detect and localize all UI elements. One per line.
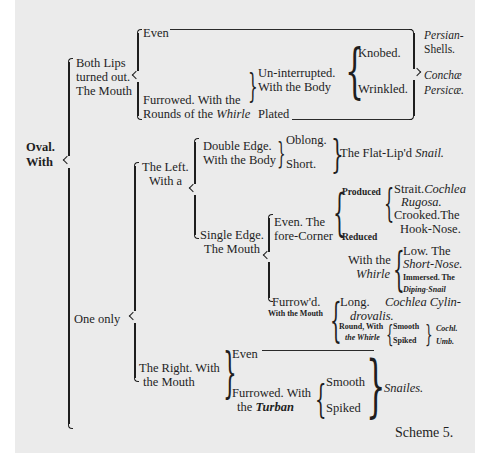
strait-crooked-brace: { — [384, 182, 394, 222]
main-brace-line-upper — [68, 62, 70, 156]
produced: Produced — [342, 187, 381, 198]
both-lips-brace-bottom — [137, 115, 142, 120]
persian-bracket-lower — [413, 80, 415, 116]
long: Long. — [340, 295, 370, 309]
snailes: Snailes. — [384, 381, 423, 395]
snailes-brace: } — [366, 352, 385, 420]
cochlea-cyl-1: Cochlea Cylin- — [385, 295, 461, 309]
double-edge-1: Double Edge. — [203, 139, 272, 153]
right-furrowed-1: Furrowed. With — [232, 386, 311, 400]
rugosa: Rugosa. — [401, 195, 442, 209]
double-edge-brace: } — [277, 138, 286, 168]
persian-2: Shells. — [424, 42, 455, 56]
even-fore-2: fore-Corner — [274, 229, 333, 243]
left-brace-lower — [194, 195, 196, 235]
plated-line — [292, 119, 412, 120]
immersed-1: Immersed. The — [403, 273, 455, 283]
single-edge-2: The Mouth — [204, 242, 260, 256]
round-smooth: Smooth — [393, 322, 419, 332]
one-only-label: One only — [74, 312, 120, 326]
left-label-1: The Left. — [142, 160, 189, 174]
main-brace-line-lower — [68, 168, 70, 424]
left-label-2: With a — [149, 174, 182, 188]
round-2: the Whirle — [345, 333, 380, 343]
left-brace-upper — [194, 142, 196, 184]
oblong: Oblong. — [286, 133, 327, 147]
main-brace-bottom — [68, 424, 73, 429]
cochl-brace: } — [425, 322, 433, 346]
right-label-2: the Mouth — [143, 375, 195, 389]
right-smooth-spiked-brace: { — [315, 378, 326, 418]
both-lips-label-2: turned out. — [76, 70, 130, 84]
both-lips-label-1: Both Lips — [76, 56, 126, 70]
short: Short. — [286, 157, 316, 171]
both-lips-brace-lower — [137, 82, 139, 116]
both-lips-furrowed-1: Furrowed. With the — [143, 93, 241, 107]
reduced: Reduced — [342, 232, 377, 243]
persian-3: Conchæ — [424, 68, 462, 82]
right-smooth: Smooth — [326, 375, 365, 389]
right-spiked: Spiked — [326, 401, 361, 415]
one-only-brace-bottom — [134, 377, 139, 382]
crooked-2: Hook-Nose. — [400, 222, 461, 236]
low-1: Low. The — [403, 244, 451, 258]
round-1: Round, With — [339, 322, 383, 332]
low-2: Short-Nose. — [403, 257, 462, 271]
both-lips-plated: Plated — [258, 107, 289, 121]
with-the-whirle-1: With the — [348, 253, 391, 267]
both-lips-brace-upper — [137, 33, 139, 71]
with-the-whirle-2: Whirle — [356, 267, 390, 281]
crooked-1: Crooked.The — [394, 208, 460, 222]
right-furrowed-2: the Turban — [237, 400, 294, 414]
uninterrupted-1: Un-interrupted. — [258, 66, 335, 80]
both-lips-label-3: The Mouth — [76, 84, 132, 98]
persian-1: Persian- — [424, 28, 464, 42]
one-only-brace-upper — [134, 166, 136, 311]
even-fore-1: Even. The — [274, 215, 325, 229]
scheme-caption: Scheme 5. — [395, 426, 453, 440]
cochl-1: Cochl. — [436, 324, 458, 334]
furrowd-1: Furrow'd. — [272, 295, 320, 309]
immersed-2: Diping-Snail — [403, 285, 446, 295]
strait: Strait.Cochlea — [394, 182, 466, 196]
single-edge-brace-upper — [268, 218, 270, 252]
cochl-2: Umb. — [436, 337, 454, 347]
both-lips-furrowed-2: Rounds of the Whirle — [143, 107, 250, 121]
persian-4: Persicæ. — [424, 83, 464, 97]
single-edge-1: Single Edge. — [200, 228, 264, 242]
root-label-with: With — [26, 155, 53, 169]
both-lips-even-line — [170, 29, 412, 30]
right-label-1: The Right. With — [139, 361, 220, 375]
wrinkled: Wrinkled. — [358, 82, 408, 96]
uninterrupted-2: With the Body — [258, 80, 331, 94]
root-label-oval: Oval. — [26, 140, 55, 154]
left-brace-bottom — [194, 234, 199, 239]
knobed: Knobed. — [358, 46, 401, 60]
furrowed-brace: } — [248, 68, 258, 102]
round-spiked: Spiked — [393, 336, 417, 346]
furrowd-2: With the Mouth — [268, 309, 323, 319]
both-lips-even: Even — [143, 26, 169, 40]
one-only-brace-lower — [134, 323, 136, 378]
flat-lipd: The Flat-Lip'd Snail. — [340, 146, 444, 160]
double-edge-2: With the Body — [203, 153, 276, 167]
right-even: Even — [232, 347, 258, 361]
single-edge-brace-lower — [268, 262, 270, 298]
persian-bracket-upper — [413, 33, 415, 69]
right-even-line — [262, 350, 374, 351]
